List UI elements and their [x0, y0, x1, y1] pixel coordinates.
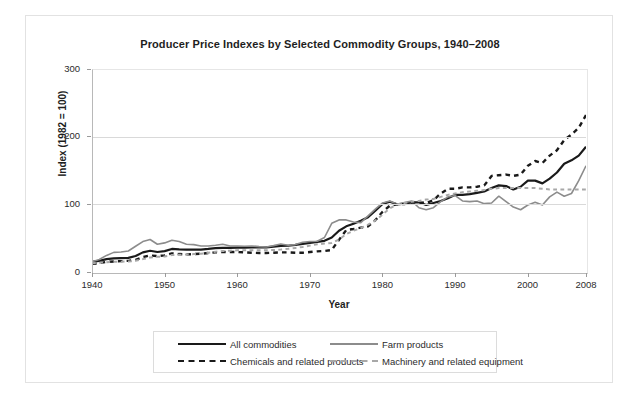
x-tick-label-1950: 1950 [135, 279, 195, 290]
x-tick-mark [586, 273, 587, 277]
legend-entry-farm-products[interactable]: Farm products [330, 336, 443, 352]
chart-legend: All commodities Farm products Chemicals … [153, 331, 497, 373]
legend-swatch-all-commodities [178, 339, 226, 349]
y-tick-mark [87, 204, 91, 205]
chart-figure: Producer Price Indexes by Selected Commo… [25, 15, 613, 383]
x-tick-label-1970: 1970 [280, 279, 340, 290]
x-axis-title: Year [92, 299, 586, 310]
x-tick-mark [528, 273, 529, 277]
legend-row-2: Chemicals and related products Machinery… [154, 353, 498, 369]
x-tick-mark [92, 273, 93, 277]
x-tick-mark [310, 273, 311, 277]
y-tick-mark [87, 136, 91, 137]
series-line-farm-products [92, 166, 586, 262]
y-tick-mark [87, 272, 91, 273]
gridline-100 [92, 204, 586, 205]
x-tick-label-1990: 1990 [425, 279, 485, 290]
gridline-200 [92, 137, 586, 138]
x-tick-label-1940: 1940 [62, 279, 122, 290]
series-canvas [92, 69, 586, 272]
plot-area [92, 69, 586, 272]
legend-label-all-commodities: All commodities [230, 339, 297, 350]
y-axis-title: Index (1982 = 100) [57, 54, 68, 214]
legend-label-machinery: Machinery and related equipment [382, 356, 523, 367]
legend-row-1: All commodities Farm products [154, 336, 498, 352]
x-tick-mark [165, 273, 166, 277]
x-tick-label-2008: 2008 [556, 279, 616, 290]
legend-swatch-farm-products [330, 339, 378, 349]
x-tick-mark [455, 273, 456, 277]
legend-entry-all-commodities[interactable]: All commodities [178, 336, 297, 352]
x-tick-mark [382, 273, 383, 277]
chart-title: Producer Price Indexes by Selected Commo… [26, 38, 614, 50]
legend-swatch-chemicals [178, 356, 226, 366]
y-tick-mark [87, 69, 91, 70]
legend-entry-machinery[interactable]: Machinery and related equipment [330, 353, 523, 369]
y-tick-label-0: 0 [42, 267, 80, 277]
x-tick-label-1980: 1980 [352, 279, 412, 290]
gridline-300 [92, 69, 586, 70]
x-tick-label-1960: 1960 [207, 279, 267, 290]
x-tick-label-2000: 2000 [498, 279, 558, 290]
legend-label-farm-products: Farm products [382, 339, 443, 350]
series-line-machinery-and-related-equipment [92, 188, 586, 263]
x-tick-mark [237, 273, 238, 277]
legend-swatch-machinery [330, 356, 378, 366]
